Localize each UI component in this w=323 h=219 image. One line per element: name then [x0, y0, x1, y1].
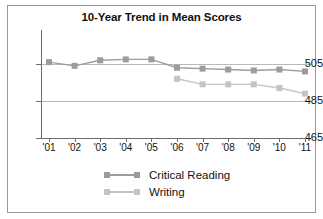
- x-axis-tick-label: '05: [137, 142, 165, 153]
- legend-swatch-critical-reading: [104, 170, 142, 179]
- legend-label-critical-reading: Critical Reading: [149, 169, 230, 181]
- x-axis-tick-label: '08: [214, 142, 242, 153]
- legend-marker-icon: [134, 172, 140, 178]
- x-axis-tick-label: '01: [35, 142, 63, 153]
- x-axis-tick-label: '11: [291, 142, 319, 153]
- legend-label-writing: Writing: [149, 186, 185, 198]
- legend-item-critical-reading[interactable]: Critical Reading: [104, 166, 264, 183]
- x-axis-line: [41, 138, 311, 139]
- chart-figure: 10-Year Trend in Mean Scores Critical Re…: [0, 0, 323, 219]
- y-axis-tick-mark: [36, 101, 41, 102]
- x-axis-tick-label: '07: [189, 142, 217, 153]
- x-axis-tick-label: '10: [265, 142, 293, 153]
- gridline: [41, 101, 311, 102]
- y-axis-line: [41, 30, 42, 139]
- x-axis-tick-label: '09: [240, 142, 268, 153]
- legend-marker-icon: [134, 189, 140, 195]
- x-axis-tick-label: '02: [61, 142, 89, 153]
- x-axis-tick-label: '06: [163, 142, 191, 153]
- legend-marker-icon: [104, 172, 110, 178]
- legend-item-writing[interactable]: Writing: [104, 183, 264, 200]
- x-axis-tick-label: '03: [86, 142, 114, 153]
- plot-area: [41, 30, 311, 138]
- y-axis-tick-mark: [36, 138, 41, 139]
- y-axis-tick-mark: [36, 64, 41, 65]
- x-axis-tick-label: '04: [112, 142, 140, 153]
- legend-swatch-writing: [104, 187, 142, 196]
- chart-title: 10-Year Trend in Mean Scores: [0, 11, 323, 23]
- y-axis-tick-label: 505: [287, 57, 323, 69]
- legend-marker-icon: [104, 189, 110, 195]
- y-axis-tick-label: 485: [287, 94, 323, 106]
- gridline: [41, 64, 311, 65]
- chart-legend: Critical Reading Writing: [104, 166, 264, 200]
